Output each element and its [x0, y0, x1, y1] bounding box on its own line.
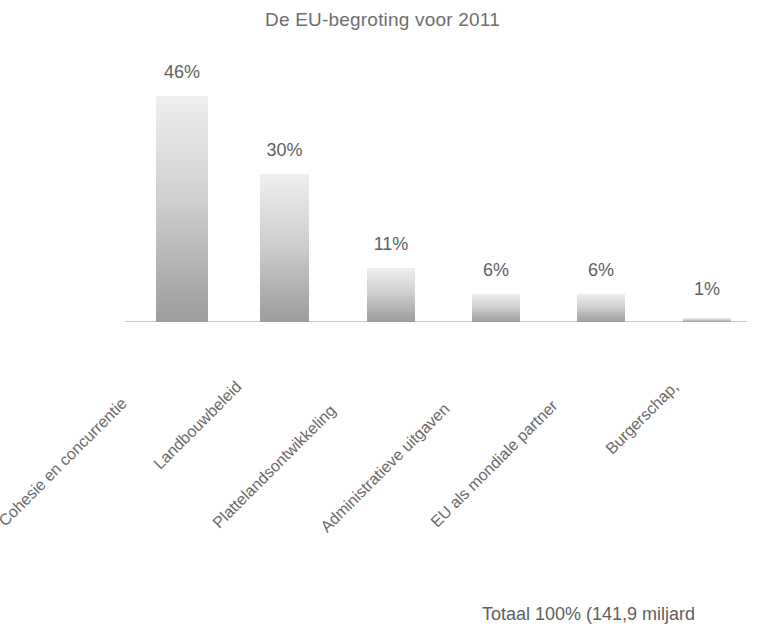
bar-group-cohesie: 46% [156, 0, 208, 322]
bar-value-label: 1% [683, 279, 731, 300]
bar-value-label: 30% [260, 140, 309, 161]
bar-group-landbouwbeleid: 30% [260, 0, 309, 322]
x-axis-label-cohesie: Cohesie en concurrentie [0, 395, 131, 530]
bar [472, 294, 520, 322]
total-annotation: Totaal 100% (141,9 miljard [482, 604, 695, 625]
bar [683, 318, 731, 322]
bar [577, 294, 625, 322]
bar-value-label: 6% [577, 260, 625, 281]
x-axis-label-plattelandsontwikkeling: Plattelandsontwikkeling [209, 402, 339, 532]
bar-value-label: 11% [367, 234, 415, 255]
x-axis-label-landbouwbeleid: Landbouwbeleid [150, 378, 245, 473]
x-axis-line [125, 321, 747, 322]
bar [156, 96, 208, 322]
x-axis-label-burgerschap: Burgerschap, [602, 378, 682, 458]
bar-group-plattelandsontwikkeling: 11% [367, 0, 415, 322]
bar-group-administratieve-uitgaven: 6% [472, 0, 520, 322]
chart-container: De EU-begroting voor 2011 46% 30% 11% 6%… [0, 0, 765, 632]
bar [260, 174, 309, 322]
bar-value-label: 46% [156, 62, 208, 83]
plot-area: 46% 30% 11% 6% 6% 1% Cohesie en c [0, 0, 765, 340]
bar-group-eu-mondiale-partner: 6% [577, 0, 625, 322]
bar [367, 268, 415, 322]
bar-group-burgerschap: 1% [683, 0, 731, 322]
bar-value-label: 6% [472, 260, 520, 281]
